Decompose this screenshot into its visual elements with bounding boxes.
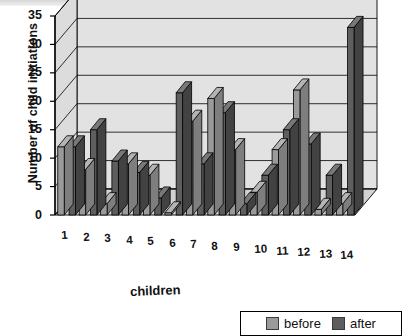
- legend-label-after: after: [350, 316, 376, 331]
- x-tick-1: 1: [61, 229, 68, 241]
- x-tick-8: 8: [211, 240, 218, 252]
- x-tick-5: 5: [147, 235, 154, 247]
- x-tick-11: 11: [276, 244, 289, 257]
- x-tick-12: 12: [297, 245, 310, 258]
- x-tick-14: 14: [340, 248, 353, 261]
- x-tick-13: 13: [319, 247, 332, 260]
- chart-legend: before after: [240, 311, 402, 336]
- x-tick-4: 4: [126, 233, 133, 245]
- legend-label-before: before: [284, 316, 321, 331]
- x-axis-label: children: [130, 282, 181, 299]
- legend-item-after: after: [332, 316, 376, 331]
- legend-item-before: before: [266, 316, 321, 331]
- x-tick-7: 7: [190, 238, 197, 250]
- x-tick-9: 9: [233, 241, 240, 253]
- legend-swatch-after: [332, 317, 345, 330]
- x-tick-3: 3: [104, 232, 111, 244]
- x-tick-10: 10: [254, 242, 267, 255]
- x-tick-2: 2: [83, 230, 90, 242]
- legend-swatch-before: [266, 317, 279, 330]
- x-tick-6: 6: [169, 236, 176, 248]
